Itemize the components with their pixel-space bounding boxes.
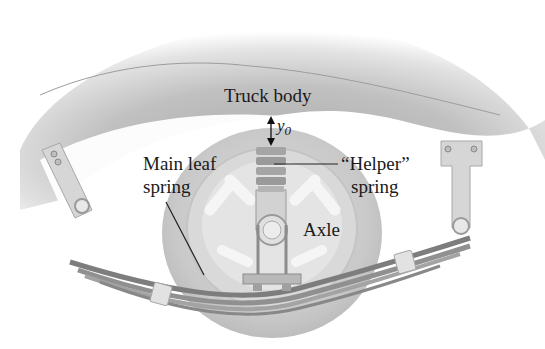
axle-label: Axle xyxy=(303,219,340,240)
helper-spring-label-line1: “Helper” xyxy=(341,153,410,174)
y0-subscript: 0 xyxy=(285,123,292,138)
right-bracket xyxy=(441,141,482,234)
diagram-canvas xyxy=(0,0,545,349)
truck-body-label: Truck body xyxy=(224,85,311,106)
y0-label: y0 xyxy=(277,115,291,137)
main-leaf-spring-label-line1: Main leaf xyxy=(143,153,216,174)
y0-symbol: y xyxy=(277,116,285,135)
main-leaf-spring-label-line2: spring xyxy=(143,176,191,197)
helper-spring-label-line2: spring xyxy=(351,176,399,197)
truck-suspension-diagram: Truck body y0 Main leaf spring “Helper” … xyxy=(0,0,545,349)
